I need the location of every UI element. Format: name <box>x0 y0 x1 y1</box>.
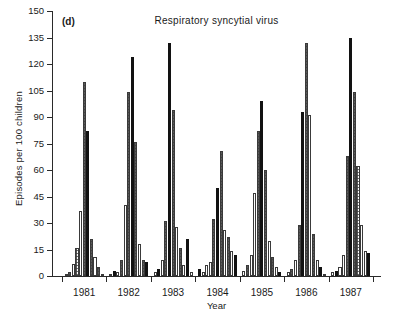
y-tick-label: 120 <box>28 59 44 69</box>
bar-1985-5 <box>257 131 260 276</box>
bar-1985-6 <box>260 101 263 276</box>
x-tick-mark <box>151 277 152 282</box>
bar-1984-4 <box>209 262 212 276</box>
bar-1984-1 <box>198 269 201 276</box>
bar-1985-10 <box>275 267 278 276</box>
bar-1986-7 <box>308 115 311 276</box>
bar-1983-9 <box>182 265 185 276</box>
bar-1986-5 <box>301 112 304 276</box>
bar-1987-10 <box>364 251 367 276</box>
bar-1983-1 <box>154 272 157 276</box>
bar-1986-2 <box>290 269 293 276</box>
bar-1982-11 <box>145 262 148 276</box>
x-tick-label-1984: 1984 <box>206 287 228 298</box>
bar-1987-9 <box>360 225 363 276</box>
bar-1981-2 <box>68 272 71 276</box>
bar-1983-4 <box>164 221 167 276</box>
y-tick-label: 90 <box>33 112 44 122</box>
bar-1981-10 <box>97 267 100 276</box>
y-tick-mark <box>47 91 52 92</box>
bar-1984-3 <box>205 265 208 276</box>
x-tick-mark <box>106 277 107 282</box>
bar-1985-2 <box>246 265 249 276</box>
x-axis-label: Year <box>52 300 381 311</box>
y-tick-mark <box>47 38 52 39</box>
bar-1987-4 <box>342 255 345 276</box>
x-tick-label-1985: 1985 <box>251 287 273 298</box>
x-tick-mark <box>195 277 196 282</box>
y-tick-label: 45 <box>33 192 44 202</box>
bar-1986-8 <box>312 234 315 276</box>
y-tick-label: 135 <box>28 33 44 43</box>
y-tick-mark <box>47 170 52 171</box>
x-axis-line <box>52 276 381 277</box>
bar-1981-1 <box>65 274 68 276</box>
bar-1986-3 <box>294 260 297 276</box>
bar-1983-3 <box>161 260 164 276</box>
bar-1982-10 <box>142 260 145 276</box>
x-tick-mark <box>284 277 285 282</box>
bar-1982-1 <box>109 274 112 276</box>
bar-1984-8 <box>223 230 226 276</box>
x-tick-label-1983: 1983 <box>162 287 184 298</box>
bar-1987-5 <box>346 156 349 276</box>
bar-1982-6 <box>127 92 130 276</box>
y-tick-mark <box>47 197 52 198</box>
x-tick-mark <box>373 277 374 282</box>
bar-1985-1 <box>242 271 245 276</box>
bar-1981-9 <box>93 257 96 276</box>
y-tick-mark <box>47 117 52 118</box>
bar-1986-1 <box>287 272 290 276</box>
y-tick-label: 105 <box>28 86 44 96</box>
bar-1982-2 <box>113 271 116 276</box>
bar-1984-6 <box>216 188 219 276</box>
bar-1986-6 <box>305 43 308 276</box>
bar-1987-8 <box>356 166 359 276</box>
bar-1983-8 <box>179 248 182 276</box>
y-tick-label: 15 <box>33 245 44 255</box>
x-tick-mark <box>62 277 63 282</box>
bar-1982-8 <box>134 142 137 276</box>
bar-1984-11 <box>234 255 237 276</box>
bar-1984-9 <box>227 237 230 276</box>
y-tick-label: 30 <box>33 218 44 228</box>
bar-1985-4 <box>253 193 256 276</box>
bar-1981-6 <box>83 82 86 276</box>
bar-1986-9 <box>316 260 319 276</box>
x-tick-mark <box>329 277 330 282</box>
bar-1983-2 <box>157 269 160 276</box>
bar-1982-3 <box>116 272 119 276</box>
y-tick-mark <box>47 64 52 65</box>
bar-1986-10 <box>319 267 322 276</box>
bar-1981-7 <box>86 131 89 276</box>
bar-1984-7 <box>220 151 223 276</box>
bar-1981-4 <box>75 248 78 276</box>
y-axis-line <box>52 11 53 277</box>
y-tick-label: 150 <box>28 6 44 16</box>
bar-1987-2 <box>335 271 338 276</box>
bar-1985-3 <box>250 255 253 276</box>
bar-1985-11 <box>278 272 281 276</box>
bar-1981-3 <box>72 264 75 276</box>
y-tick-label: 75 <box>33 139 44 149</box>
x-tick-mark <box>240 277 241 282</box>
y-tick-mark <box>47 223 52 224</box>
bar-1984-10 <box>230 251 233 276</box>
bar-1987-11 <box>367 253 370 276</box>
bar-1987-7 <box>353 92 356 276</box>
x-tick-label-1981: 1981 <box>73 287 95 298</box>
bar-1985-7 <box>264 170 267 276</box>
bar-1987-3 <box>338 267 341 276</box>
bar-1983-10 <box>186 239 189 276</box>
y-tick-label: 60 <box>33 165 44 175</box>
x-tick-label-1987: 1987 <box>340 287 362 298</box>
bar-1982-9 <box>138 244 141 276</box>
bar-1985-9 <box>271 257 274 276</box>
x-tick-label-1986: 1986 <box>295 287 317 298</box>
bar-1983-5 <box>168 43 171 276</box>
bar-1986-11 <box>323 274 326 276</box>
chart-container: Episodes per 100 children (d) Respirator… <box>0 0 393 321</box>
y-tick-mark <box>47 144 52 145</box>
y-tick-mark <box>47 11 52 12</box>
y-axis-label: Episodes per 100 children <box>13 54 24 244</box>
